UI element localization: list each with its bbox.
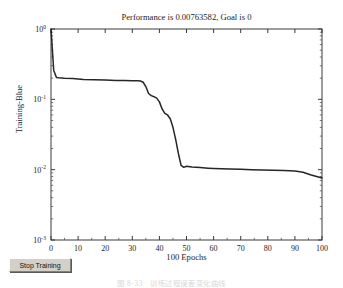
plot-frame bbox=[51, 29, 322, 240]
figure-screenshot: Performance is 0.00763582, Goal is 0 Tra… bbox=[0, 0, 343, 288]
x-tick-label: 50 bbox=[183, 244, 191, 253]
plot-axes bbox=[51, 29, 322, 240]
y-axis-minor-ticks bbox=[51, 32, 322, 240]
caption-number: 图 8-33 bbox=[117, 279, 143, 288]
series-lines bbox=[51, 29, 322, 178]
y-tick-label: 100 bbox=[35, 24, 46, 34]
y-tick-label: 10-3 bbox=[33, 235, 46, 245]
x-tick-label: 40 bbox=[155, 244, 163, 253]
x-tick-label: 100 bbox=[316, 244, 328, 253]
training-error-line bbox=[51, 29, 322, 178]
x-tick-label: 80 bbox=[264, 244, 272, 253]
y-tick-label: 10-2 bbox=[33, 164, 46, 174]
x-tick-label: 90 bbox=[291, 244, 299, 253]
stop-training-label: Stop Training bbox=[19, 262, 60, 269]
x-axis-ticks: 0102030405060708090100 bbox=[49, 29, 328, 253]
training-performance-figure: Performance is 0.00763582, Goal is 0 Tra… bbox=[0, 8, 343, 256]
x-tick-label: 60 bbox=[210, 244, 218, 253]
x-tick-label: 20 bbox=[101, 244, 109, 253]
y-axis-ticks: 10010-110-210-3 bbox=[33, 24, 322, 245]
stop-training-button[interactable]: Stop Training bbox=[9, 258, 71, 272]
x-tick-label: 0 bbox=[49, 244, 53, 253]
figure-caption: 图 8-33训练过程误差变化曲线 bbox=[0, 277, 343, 288]
caption-text: 训练过程误差变化曲线 bbox=[150, 279, 226, 288]
y-tick-label: 10-1 bbox=[33, 94, 46, 104]
x-tick-label: 70 bbox=[237, 244, 245, 253]
performance-plot: 0102030405060708090100 10010-110-210-3 bbox=[0, 8, 343, 256]
x-tick-label: 30 bbox=[128, 244, 136, 253]
x-tick-label: 10 bbox=[74, 244, 82, 253]
